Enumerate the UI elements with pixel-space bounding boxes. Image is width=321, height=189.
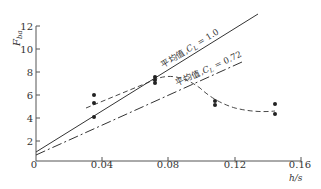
chart: 12 10 8 6 4 2 0 0.04 0.08 0.12 0.16 h/s … — [0, 0, 321, 189]
y-tick-4: 4 — [27, 113, 33, 124]
y-tick-10: 10 — [20, 44, 33, 55]
x-tick-0-04: 0.04 — [91, 159, 113, 170]
x-tick-0: 0 — [31, 159, 37, 170]
x-axis-label: h/s — [289, 173, 303, 183]
y-tick-8: 8 — [27, 67, 33, 78]
mean-line-cl-0-72 — [36, 62, 242, 155]
y-tick-12: 12 — [20, 21, 33, 32]
x-tick-0-16: 0.16 — [289, 159, 311, 170]
y-tick-2: 2 — [27, 136, 33, 147]
x-tick-0-08: 0.08 — [157, 159, 179, 170]
axes — [36, 26, 301, 161]
x-tick-0-12: 0.12 — [224, 159, 246, 170]
y-tick-6: 6 — [27, 90, 33, 101]
